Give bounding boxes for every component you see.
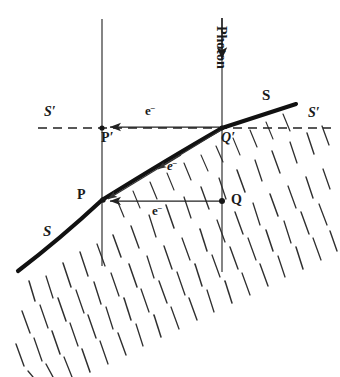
diagram-canvas — [0, 0, 340, 377]
label-electron-diagonal: e– — [167, 159, 177, 172]
prime-mark-plane-left: ′ — [52, 104, 56, 119]
charge-sign-bottom: – — [158, 203, 162, 212]
label-point-Q-prime: Q′ — [221, 131, 235, 145]
photoelectron-escape-diagram: P Q P′ Q′ S S S′ S′ e– e– e– Photon — [0, 0, 340, 377]
label-plane-left: S′ — [44, 105, 56, 119]
label-point-Q: Q — [231, 193, 242, 207]
label-electron-bottom: e– — [152, 204, 162, 217]
label-photon: Photon — [214, 26, 228, 69]
label-plane-right: S′ — [308, 106, 320, 120]
label-electron-top: e– — [145, 104, 155, 117]
label-point-P: P — [77, 188, 86, 202]
prime-mark-plane-right: ′ — [316, 105, 320, 120]
surface-curve — [18, 104, 296, 271]
prime-mark-P: ′ — [110, 130, 114, 145]
point-marker-Q — [219, 198, 225, 204]
charge-sign-top: – — [151, 103, 155, 112]
charge-sign-diagonal: – — [173, 158, 177, 167]
prime-mark-Q: ′ — [231, 130, 235, 145]
point-marker-P — [100, 197, 105, 202]
label-surface-lower-left: S — [43, 224, 51, 239]
label-point-P-prime: P′ — [101, 131, 114, 145]
label-surface-upper-right: S — [262, 88, 270, 103]
